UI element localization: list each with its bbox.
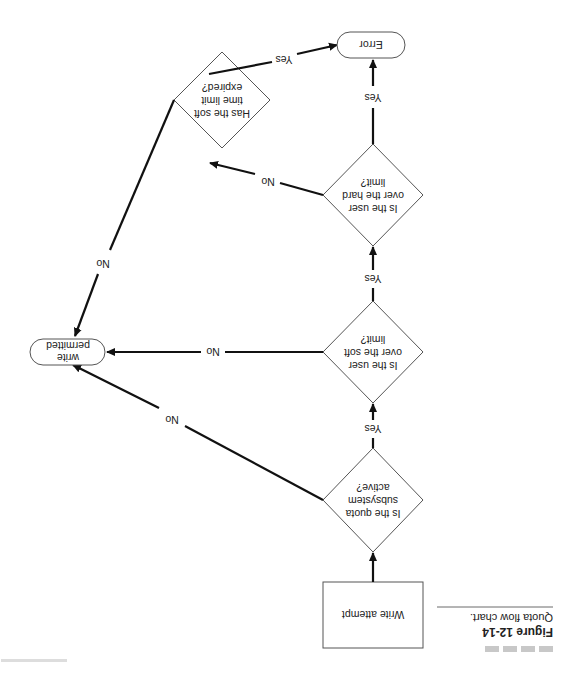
decision-text: time limit [201, 95, 242, 107]
decision-quota-active: Is the quota subsystem active? [323, 448, 423, 552]
node-write-attempt: Write attempt [323, 582, 423, 648]
decision-text: Is the quota [345, 508, 400, 520]
edge-label-no: No [96, 258, 110, 270]
decision-text: Is the user [348, 360, 398, 372]
figure-caption: Figure 12-14 Quota flow chart. [437, 607, 553, 652]
edge-label-yes: Yes [275, 54, 292, 66]
quota-flowchart: Figure 12-14 Quota flow chart. Write att… [0, 0, 565, 678]
edge-label-yes: Yes [364, 423, 381, 435]
decision-text: Is the user [348, 203, 398, 215]
caption-bar [521, 646, 535, 652]
terminal-text: write [57, 352, 80, 364]
edge-expired-no-b [75, 274, 98, 336]
flowchart-page: Figure 12-14 Quota flow chart. Write att… [0, 0, 565, 678]
caption-bar [485, 646, 499, 652]
decision-text: over the soft [344, 347, 402, 359]
edge-label-no: No [206, 346, 220, 358]
edge-expired-no-a [110, 100, 174, 250]
decision-text: subsystem [348, 495, 398, 507]
decision-text: active? [356, 482, 389, 494]
terminal-text: permitted [46, 340, 90, 352]
edge-expired-yes-b [297, 45, 337, 54]
caption-bar [503, 646, 517, 652]
figure-number: Figure 12-14 [482, 625, 553, 639]
edge-quota-no-a [185, 426, 323, 500]
terminal-write-permitted: write permitted [30, 339, 105, 365]
decision-text: expired? [202, 82, 242, 94]
write-attempt-label: Write attempt [342, 609, 404, 621]
edge-hard-no-a [280, 183, 323, 195]
decision-text: Has the soft [194, 108, 250, 120]
edge-label-yes: Yes [364, 92, 381, 104]
terminal-text: Error [359, 39, 383, 51]
decision-over-soft-limit: Is the user over the soft limit? [323, 301, 423, 403]
decision-text: over the hard [342, 190, 404, 202]
terminal-error: Error [337, 32, 405, 58]
decision-over-hard-limit: Is the user over the hard limit? [323, 144, 423, 246]
caption-bar [539, 646, 553, 652]
edge-quota-no-b [73, 365, 159, 408]
edge-hard-no-b [210, 163, 255, 174]
figure-caption-text: Quota flow chart. [470, 612, 553, 624]
decision-text: limit? [361, 177, 386, 189]
decision-text: limit? [361, 334, 386, 346]
edge-label-no: No [261, 176, 275, 188]
decision-soft-time-expired: Has the soft time limit expired? [174, 52, 270, 148]
scan-mark [1, 659, 67, 662]
edge-label-no: No [165, 414, 179, 426]
edge-label-yes: Yes [364, 273, 381, 285]
